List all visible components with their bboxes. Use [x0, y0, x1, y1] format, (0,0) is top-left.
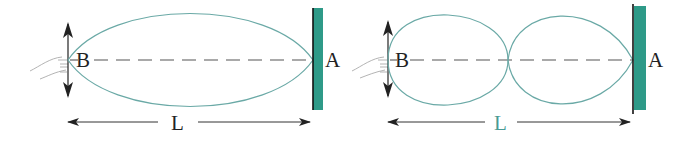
standing-wave-diagrams: B A L B A: [0, 0, 694, 145]
hand-icon: [352, 57, 388, 78]
hand-icon: [30, 57, 68, 79]
label-a: A: [648, 48, 664, 72]
diagram-fundamental: B A L: [30, 8, 341, 135]
label-b: B: [395, 48, 409, 72]
label-a: A: [325, 48, 341, 72]
wall: [634, 6, 646, 110]
diagram-canvas: B A L B A: [0, 0, 694, 145]
length-label: L: [494, 111, 507, 135]
wall: [313, 8, 323, 110]
length-label: L: [171, 111, 184, 135]
label-b: B: [76, 48, 90, 72]
diagram-second-harmonic: B A L: [352, 4, 664, 135]
